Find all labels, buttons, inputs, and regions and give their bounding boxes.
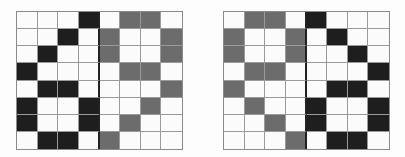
grid-cell-white: [286, 115, 307, 132]
pixel-grid-right: [223, 11, 390, 150]
grid-cell-white: [38, 12, 59, 29]
grid-cell-white: [307, 46, 328, 63]
grid-cell-gray: [100, 29, 121, 46]
grid-cell-white: [161, 98, 182, 115]
grid-cell-gray: [286, 46, 307, 63]
grid-cell-white: [224, 115, 245, 132]
grid-cell-white: [368, 132, 389, 149]
grid-cell-white: [79, 63, 100, 80]
grid-cell-black: [17, 63, 38, 80]
grid-cell-black: [368, 63, 389, 80]
grid-cell-black: [17, 98, 38, 115]
grid-cell-black: [368, 115, 389, 132]
grid-cell-black: [58, 29, 79, 46]
grid-cell-white: [100, 12, 121, 29]
grid-cell-gray: [265, 12, 286, 29]
grid-cell-white: [141, 29, 162, 46]
grid-cell-black: [348, 81, 369, 98]
grid-cell-white: [307, 29, 328, 46]
grid-cell-white: [286, 98, 307, 115]
grid-cell-white: [348, 12, 369, 29]
grid-cell-white: [286, 81, 307, 98]
grid-cell-black: [348, 46, 369, 63]
grid-cell-white: [348, 115, 369, 132]
grid-cell-gray: [100, 132, 121, 149]
grid-cell-white: [38, 98, 59, 115]
grid-cell-white: [38, 29, 59, 46]
grid-cell-black: [307, 12, 328, 29]
grid-cell-white: [141, 132, 162, 149]
grid-cell-gray: [141, 12, 162, 29]
grid-cell-black: [79, 12, 100, 29]
grid-cell-white: [265, 98, 286, 115]
pixel-grid-left: [16, 11, 183, 150]
grid-cell-gray: [161, 46, 182, 63]
grid-cell-black: [17, 115, 38, 132]
grid-cell-white: [265, 132, 286, 149]
grid-cell-black: [327, 132, 348, 149]
grid-cell-white: [327, 12, 348, 29]
grid-cell-white: [368, 46, 389, 63]
grid-cell-white: [307, 81, 328, 98]
grid-cell-gray: [141, 98, 162, 115]
grid-cell-gray: [161, 81, 182, 98]
grid-cell-black: [38, 81, 59, 98]
grid-cell-white: [79, 81, 100, 98]
grid-cell-white: [327, 98, 348, 115]
grid-cell-white: [327, 63, 348, 80]
grid-cell-gray: [245, 63, 266, 80]
grid-cell-white: [368, 29, 389, 46]
grid-cell-gray: [161, 29, 182, 46]
grid-cell-gray: [224, 81, 245, 98]
grid-cell-white: [224, 98, 245, 115]
grid-cell-gray: [265, 63, 286, 80]
grid-cell-white: [79, 132, 100, 149]
grid-cell-white: [58, 12, 79, 29]
grid-cell-gray: [120, 63, 141, 80]
grid-cell-gray: [224, 46, 245, 63]
grid-cell-white: [307, 132, 328, 149]
grid-cell-white: [161, 115, 182, 132]
grid-cell-white: [100, 98, 121, 115]
grid-cell-gray: [245, 98, 266, 115]
grid-cell-black: [307, 98, 328, 115]
grid-cell-white: [307, 63, 328, 80]
grid-cell-white: [141, 81, 162, 98]
grid-cell-black: [79, 98, 100, 115]
grid-cell-white: [17, 46, 38, 63]
grid-cell-white: [17, 81, 38, 98]
grid-cell-black: [368, 98, 389, 115]
grid-cell-white: [141, 115, 162, 132]
grid-cell-white: [368, 81, 389, 98]
grid-cell-black: [348, 132, 369, 149]
grid-cell-gray: [224, 29, 245, 46]
grid-cell-white: [161, 12, 182, 29]
grid-cell-white: [17, 29, 38, 46]
grid-cell-white: [348, 29, 369, 46]
grid-cell-white: [265, 29, 286, 46]
grid-cell-white: [58, 46, 79, 63]
grid-cell-white: [327, 46, 348, 63]
grid-cell-white: [120, 132, 141, 149]
grid-cell-black: [327, 29, 348, 46]
grid-cell-black: [58, 132, 79, 149]
grid-cell-white: [58, 98, 79, 115]
grid-cell-white: [224, 132, 245, 149]
grid-cell-white: [120, 81, 141, 98]
grid-cell-white: [265, 46, 286, 63]
grid-cell-black: [38, 46, 59, 63]
grid-cell-gray: [120, 12, 141, 29]
grid-cell-white: [224, 12, 245, 29]
grid-cell-gray: [100, 46, 121, 63]
grid-cell-black: [58, 81, 79, 98]
grid-cell-white: [79, 46, 100, 63]
grid-cell-white: [120, 46, 141, 63]
grid-cell-white: [161, 63, 182, 80]
grid-cell-white: [100, 63, 121, 80]
grid-cell-white: [17, 132, 38, 149]
grid-cell-white: [245, 132, 266, 149]
grid-cell-white: [245, 81, 266, 98]
grid-cell-white: [286, 63, 307, 80]
grid-cell-white: [58, 115, 79, 132]
grid-cell-white: [100, 115, 121, 132]
